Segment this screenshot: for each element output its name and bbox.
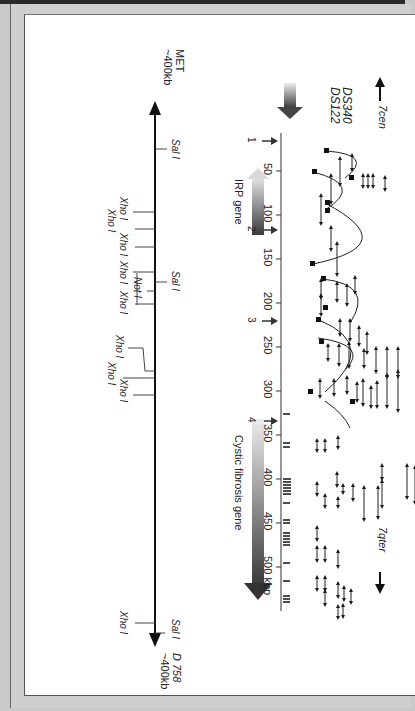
site-xho-i-7: Xho I <box>105 362 117 385</box>
site-sal-i-2: Sal I <box>169 271 181 291</box>
kbp-scale-axis <box>276 133 281 611</box>
label-ds122: DS122 <box>329 87 341 124</box>
breakpoint-3: 3 <box>245 317 257 323</box>
label-met: MET <box>174 49 186 72</box>
site-xho-i-8: Xho I <box>117 379 129 402</box>
label-d758-distance: ~400kb <box>159 653 171 689</box>
tick-100: 100 <box>262 204 274 222</box>
site-xho-i-3: Xho I <box>117 233 129 256</box>
genetic-map-drawing <box>25 15 415 695</box>
label-cf-gene: Cystic fibrosis gene <box>233 435 245 530</box>
qter-arrow-icon <box>375 572 385 594</box>
site-not-i: Not I <box>131 277 143 298</box>
restriction-sites <box>123 149 167 633</box>
site-xho-i-6: Xho I <box>113 335 125 358</box>
label-7cen: 7cen <box>377 105 389 129</box>
site-xho-i-4: Xho I <box>117 261 129 284</box>
tick-400: 400 <box>262 468 274 486</box>
site-xho-i-2: Xho I <box>105 209 117 232</box>
tick-500-kbp: 500 kbp <box>262 556 274 595</box>
tick-350: 350 <box>262 424 274 442</box>
breakpoint-1: 1 <box>245 137 257 143</box>
restriction-map-line <box>149 101 161 647</box>
sts-ticks <box>283 414 291 602</box>
site-sal-i-3: Sal I <box>169 619 181 639</box>
figure-page: DS340 DS122 7cen 7qter 50 100 150 200 25… <box>24 14 415 696</box>
tick-250: 250 <box>262 336 274 354</box>
site-xho-i-9: Xho I <box>117 611 129 634</box>
label-met-distance: ~400kb <box>162 49 174 85</box>
tick-300: 300 <box>262 380 274 398</box>
label-d758: D 758 <box>171 653 183 682</box>
tick-200: 200 <box>262 292 274 310</box>
ds-marker-arrow <box>277 83 303 119</box>
site-sal-i-1: Sal I <box>169 139 181 159</box>
tick-150: 150 <box>262 248 274 266</box>
tick-50: 50 <box>262 163 274 175</box>
breakpoint-2: 2 <box>245 226 257 232</box>
tick-450: 450 <box>262 512 274 530</box>
breakpoint-4: 4 <box>245 417 257 423</box>
site-xho-i-5: Xho I <box>117 291 129 314</box>
site-xho-i-1: Xho I <box>117 197 129 220</box>
label-ds340: DS340 <box>341 87 353 124</box>
label-7qter: 7qter <box>377 527 389 552</box>
label-irp-gene: IRP gene <box>233 179 245 225</box>
cen-arrow-icon <box>375 77 385 101</box>
irp-gene-arrow <box>247 168 269 235</box>
